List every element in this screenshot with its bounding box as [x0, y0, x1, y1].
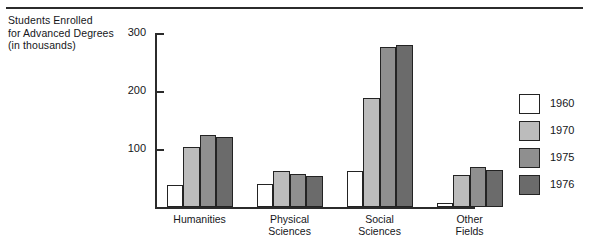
y-tick-label: 200: [128, 84, 146, 96]
x-axis-baseline: [155, 207, 475, 209]
bar-group: [167, 30, 233, 207]
y-tick-label: 300: [128, 26, 146, 38]
chart-figure: Students Enrolled for Advanced Degrees (…: [0, 0, 589, 248]
bar: [273, 171, 290, 208]
legend-label: 1960: [550, 97, 574, 109]
y-axis-title-line-1: Students Enrolled: [8, 14, 126, 27]
bar-group: [347, 30, 413, 207]
bar: [453, 175, 470, 207]
category-label-line: Fields: [410, 225, 530, 237]
bar-group: [257, 30, 323, 207]
bar: [486, 170, 503, 208]
bar: [257, 184, 274, 207]
bar: [216, 137, 233, 208]
y-tick-label: 100: [128, 142, 146, 154]
legend-label: 1976: [550, 178, 574, 190]
bar-group: [437, 30, 503, 207]
legend-swatch: [519, 121, 540, 141]
y-axis-title-line-3: (in thousands): [8, 39, 126, 52]
legend-label: 1975: [550, 151, 574, 163]
bar: [363, 98, 380, 207]
bar: [347, 171, 364, 208]
bar: [470, 167, 487, 208]
category-label-line: Other: [410, 213, 530, 225]
plot-area: 100200300 HumanitiesPhysicalSciencesSoci…: [155, 30, 475, 210]
bar: [437, 203, 454, 208]
y-axis-title-line-2: for Advanced Degrees: [8, 27, 126, 40]
bar-groups: [157, 30, 475, 207]
legend-swatch: [519, 94, 540, 114]
y-axis-title: Students Enrolled for Advanced Degrees (…: [8, 14, 126, 52]
legend-swatch: [519, 148, 540, 168]
bar: [183, 147, 200, 208]
bar: [380, 47, 397, 208]
bar: [396, 45, 413, 207]
bar: [167, 185, 184, 207]
legend-swatch: [519, 175, 540, 195]
category-label: OtherFields: [410, 213, 530, 238]
legend-label: 1970: [550, 124, 574, 136]
bar: [290, 174, 307, 207]
bar: [200, 135, 217, 207]
bar: [306, 176, 323, 207]
top-divider-rule: [6, 7, 583, 9]
